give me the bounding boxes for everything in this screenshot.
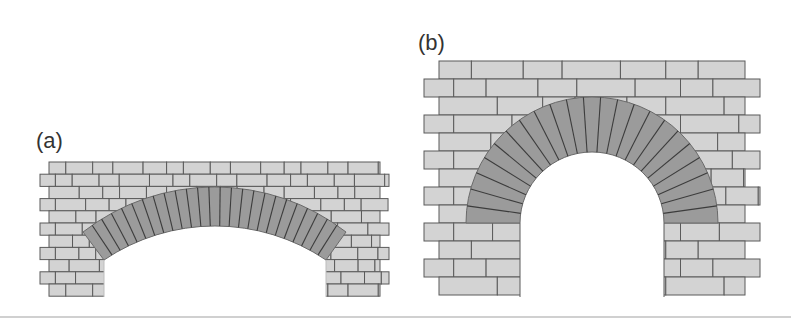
- brick: [55, 272, 75, 284]
- brick: [635, 79, 680, 97]
- brick: [183, 162, 210, 174]
- brick: [40, 174, 55, 186]
- brick: [49, 211, 76, 223]
- brick: [79, 186, 103, 198]
- brick: [331, 211, 361, 223]
- brick: [454, 223, 493, 241]
- brick: [354, 174, 384, 186]
- brick: [424, 115, 454, 133]
- brick: [358, 260, 375, 272]
- brick: [577, 79, 635, 97]
- brick: [523, 61, 562, 79]
- brick: [119, 174, 149, 186]
- brick: [666, 97, 724, 115]
- brick: [49, 284, 66, 296]
- brick: [40, 199, 55, 211]
- brick: [439, 277, 497, 295]
- brick: [72, 174, 99, 186]
- brick: [49, 235, 73, 247]
- brick: [378, 284, 380, 296]
- brick: [210, 162, 230, 174]
- brick: [681, 223, 720, 241]
- brick: [372, 235, 380, 247]
- brick: [79, 247, 96, 259]
- brick: [355, 186, 380, 198]
- brick: [562, 61, 620, 79]
- brick: [666, 241, 698, 259]
- brick: [99, 174, 119, 186]
- brick: [471, 61, 523, 79]
- brick: [424, 187, 454, 205]
- brick: [40, 247, 55, 259]
- brick: [55, 174, 72, 186]
- brick: [103, 186, 120, 198]
- brick: [744, 169, 745, 187]
- brick: [190, 174, 217, 186]
- brick: [284, 162, 301, 174]
- brick: [261, 162, 285, 174]
- brick: [230, 162, 260, 174]
- brick: [321, 199, 345, 211]
- brick: [378, 162, 380, 174]
- brick: [724, 97, 745, 115]
- brick: [439, 61, 471, 79]
- brick: [328, 162, 348, 174]
- brick: [375, 260, 380, 272]
- brick: [424, 151, 454, 169]
- brick: [348, 162, 378, 174]
- brick: [454, 115, 512, 133]
- brick: [486, 79, 538, 97]
- brick: [66, 284, 93, 296]
- brick: [217, 174, 237, 186]
- brick: [291, 174, 308, 186]
- brick: [698, 61, 745, 79]
- brick: [454, 259, 486, 277]
- brick: [758, 187, 760, 205]
- brick: [471, 241, 523, 259]
- brick: [381, 272, 389, 284]
- brick: [732, 151, 760, 169]
- brick: [739, 115, 760, 133]
- brick: [335, 260, 359, 272]
- brick: [237, 174, 267, 186]
- brick: [724, 277, 745, 295]
- brick: [49, 186, 79, 198]
- brick: [365, 272, 382, 284]
- brick: [120, 186, 147, 198]
- brick: [93, 162, 113, 174]
- brick: [301, 162, 328, 174]
- brick: [718, 133, 745, 151]
- brick: [681, 79, 713, 97]
- brick: [69, 260, 99, 272]
- brick: [66, 162, 93, 174]
- brick: [334, 174, 354, 186]
- brick: [439, 241, 471, 259]
- brick: [713, 79, 760, 97]
- brick: [666, 61, 698, 79]
- brick: [711, 169, 743, 187]
- arch-diagram: [0, 0, 791, 318]
- brick: [681, 259, 713, 277]
- brick: [55, 199, 85, 211]
- brick: [284, 186, 314, 198]
- brick: [113, 162, 143, 174]
- brick: [338, 186, 355, 198]
- brick: [424, 259, 454, 277]
- brick: [439, 133, 491, 151]
- brick: [698, 241, 745, 259]
- brick: [341, 272, 365, 284]
- brick: [713, 259, 760, 277]
- brick: [149, 174, 173, 186]
- brick: [424, 79, 454, 97]
- semicircular-arch-panel: [424, 61, 760, 297]
- brick: [55, 223, 82, 235]
- brick: [331, 247, 358, 259]
- brick: [344, 199, 361, 211]
- brick: [307, 174, 334, 186]
- brick: [49, 162, 66, 174]
- brick: [378, 247, 389, 259]
- brick: [55, 247, 79, 259]
- brick: [681, 115, 739, 133]
- brick: [267, 174, 291, 186]
- brick: [385, 174, 389, 186]
